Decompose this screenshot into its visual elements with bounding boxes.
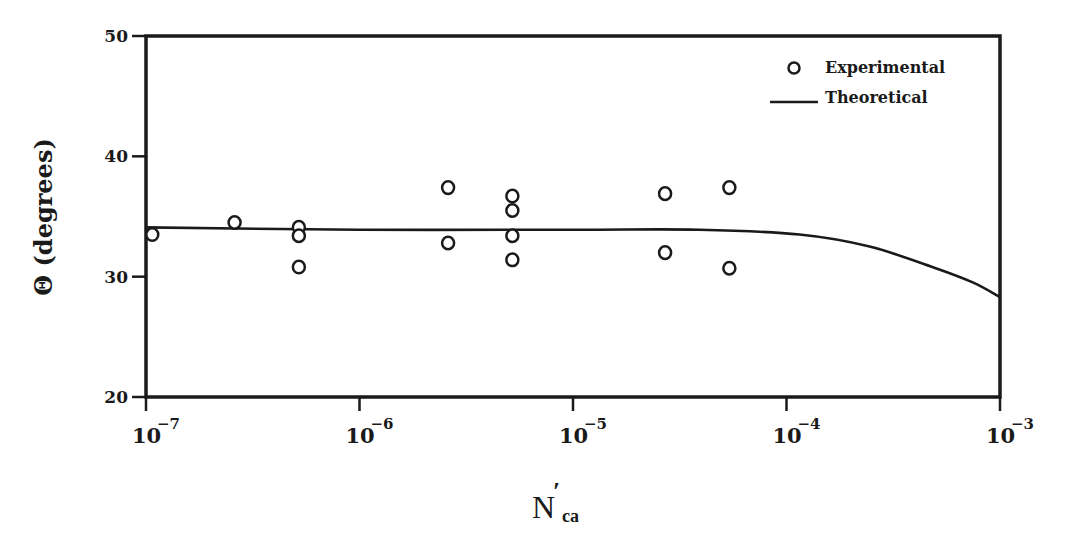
y-axis-label: Θ (degrees)	[29, 138, 58, 296]
experimental-point	[659, 187, 671, 200]
experimental-point	[146, 228, 158, 241]
experimental-point	[506, 254, 518, 267]
theoretical-curve	[146, 227, 1000, 297]
x-axis-ticks: 10−710−610−510−410−3	[132, 397, 1034, 448]
legend-label-theoretical: Theoretical	[825, 88, 928, 107]
x-tick-exponent: −3	[1011, 415, 1034, 433]
experimental-point	[442, 181, 454, 194]
theoretical-line	[146, 227, 1000, 297]
experimental-point	[293, 261, 305, 274]
x-axis-label-prime: ′	[553, 477, 560, 506]
experimental-point	[506, 190, 518, 203]
legend-label-experimental: Experimental	[825, 58, 945, 77]
legend-marker-circle-icon	[789, 63, 800, 74]
y-axis-title: Θ (degrees)	[29, 138, 58, 296]
y-tick-label: 40	[104, 146, 128, 166]
experimental-point	[293, 229, 305, 242]
x-tick-exponent: −4	[798, 415, 821, 433]
legend: ExperimentalTheoretical	[770, 58, 945, 107]
x-tick-label: 10−5	[559, 415, 607, 448]
y-tick-label: 20	[104, 387, 128, 407]
chart: 50403020 10−710−610−510−410−3 Experiment…	[0, 0, 1075, 546]
experimental-point	[659, 246, 671, 259]
x-tick-label: 10−4	[773, 415, 821, 448]
experimental-point	[506, 229, 518, 242]
x-tick-label: 10−3	[986, 415, 1034, 448]
y-tick-label: 30	[104, 267, 128, 287]
experimental-point	[723, 181, 735, 194]
x-tick-label: 10−7	[132, 415, 180, 448]
x-tick-exponent: −7	[157, 415, 180, 433]
x-axis-title: N ′ ca	[532, 477, 579, 526]
experimental-point	[506, 204, 518, 217]
x-tick-label: 10−6	[346, 415, 394, 448]
experimental-point	[442, 237, 454, 250]
y-axis-ticks: 50403020	[104, 26, 146, 407]
experimental-points	[146, 181, 735, 274]
x-tick-exponent: −5	[584, 415, 607, 433]
experimental-point	[229, 216, 241, 229]
x-axis-label-subscript: ca	[562, 506, 579, 526]
experimental-point	[723, 262, 735, 275]
y-tick-label: 50	[104, 26, 128, 46]
x-axis-label-main: N	[532, 489, 555, 525]
x-tick-exponent: −6	[371, 415, 394, 433]
